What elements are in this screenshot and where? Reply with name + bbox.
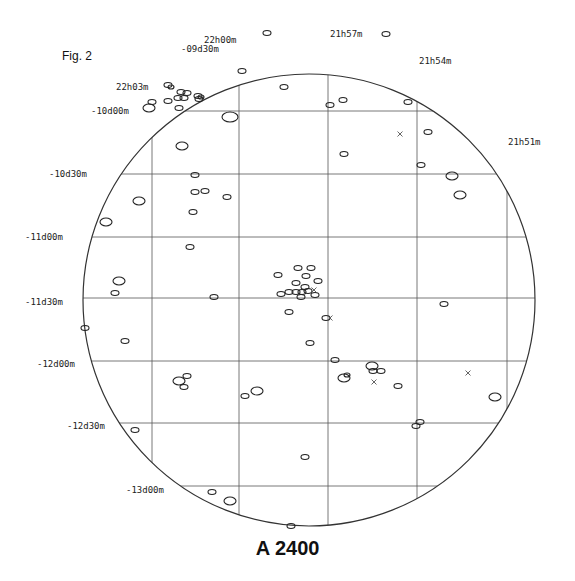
chart-title: A 2400 bbox=[0, 537, 575, 560]
galaxy-marker bbox=[446, 172, 458, 180]
galaxy-marker bbox=[175, 106, 183, 111]
galaxy-marker bbox=[314, 279, 322, 284]
galaxy-marker bbox=[210, 295, 218, 300]
sky-chart: 22h03m22h00m21h57m21h54m21h51m-09d30m-10… bbox=[0, 0, 575, 581]
galaxy-marker bbox=[173, 377, 185, 385]
galaxy-marker bbox=[164, 99, 172, 104]
galaxy-marker bbox=[113, 277, 125, 285]
galaxy-marker bbox=[424, 130, 432, 135]
galaxy-marker bbox=[280, 85, 288, 90]
galaxy-marker bbox=[111, 291, 119, 296]
galaxy-marker bbox=[191, 173, 199, 178]
ra-label: 21h51m bbox=[508, 137, 541, 147]
galaxy-marker bbox=[412, 424, 420, 429]
galaxy-marker bbox=[302, 274, 310, 279]
galaxy-marker bbox=[326, 103, 334, 108]
galaxy-marker bbox=[201, 189, 209, 194]
figure-label: Fig. 2 bbox=[62, 49, 92, 63]
galaxy-marker bbox=[306, 341, 314, 346]
galaxy-marker bbox=[277, 292, 285, 297]
dec-label: -11d00m bbox=[25, 232, 63, 242]
galaxy-marker bbox=[241, 394, 249, 399]
galaxy-marker bbox=[294, 266, 302, 271]
galaxy-marker bbox=[454, 191, 466, 199]
galaxy-marker bbox=[222, 112, 238, 122]
galaxy-marker bbox=[340, 152, 348, 157]
galaxy-marker bbox=[285, 310, 293, 315]
galaxy-marker bbox=[183, 374, 191, 379]
galaxy-marker bbox=[369, 369, 377, 374]
dec-label: -13d00m bbox=[126, 485, 164, 495]
ra-label: 22h03m bbox=[116, 82, 149, 92]
ra-label: 21h57m bbox=[330, 29, 363, 39]
galaxy-marker bbox=[131, 428, 139, 433]
galaxy-marker bbox=[394, 384, 402, 389]
galaxy-marker bbox=[121, 339, 129, 344]
galaxy-marker bbox=[331, 358, 339, 363]
galaxy-marker bbox=[440, 302, 448, 307]
galaxy-marker bbox=[251, 387, 263, 395]
galaxy-marker bbox=[339, 98, 347, 103]
galaxy-marker bbox=[301, 455, 309, 460]
galaxy-marker bbox=[307, 266, 315, 271]
galaxy-marker bbox=[292, 281, 300, 286]
galaxy-marker bbox=[263, 31, 271, 36]
galaxy-marker bbox=[186, 245, 194, 250]
galaxy-marker bbox=[176, 142, 188, 150]
dec-label: -10d00m bbox=[91, 106, 129, 116]
ra-label: 21h54m bbox=[419, 56, 452, 66]
galaxy-marker bbox=[143, 104, 155, 112]
coordinate-labels: 22h03m22h00m21h57m21h54m21h51m-09d30m-10… bbox=[25, 29, 541, 495]
dec-label: -09d30m bbox=[181, 44, 219, 54]
galaxy-marker bbox=[224, 497, 236, 505]
galaxy-marker bbox=[311, 293, 319, 298]
galaxy-marker bbox=[100, 218, 112, 226]
galaxy-marker bbox=[208, 490, 216, 495]
galaxy-marker bbox=[180, 385, 188, 390]
galaxy-marker bbox=[189, 210, 197, 215]
galaxy-marker bbox=[417, 163, 425, 168]
cross-marker bbox=[466, 371, 471, 376]
galaxy-marker bbox=[274, 273, 282, 278]
dec-label: -11d30m bbox=[25, 297, 63, 307]
dec-label: -12d00m bbox=[37, 359, 75, 369]
galaxy-marker bbox=[377, 369, 385, 374]
galaxy-marker bbox=[404, 100, 412, 105]
galaxy-marker bbox=[133, 197, 145, 205]
galaxy-marker bbox=[223, 195, 231, 200]
galaxy-marker bbox=[297, 295, 305, 300]
galaxy-marker bbox=[180, 96, 188, 101]
cross-marker bbox=[372, 380, 377, 385]
cross-marker bbox=[398, 132, 403, 137]
galaxy-marker bbox=[191, 190, 199, 195]
galaxy-marker bbox=[489, 393, 501, 401]
dec-label: -12d30m bbox=[67, 421, 105, 431]
dec-label: -10d30m bbox=[49, 169, 87, 179]
galaxy-marker bbox=[238, 69, 246, 74]
galaxy-marker bbox=[382, 32, 390, 37]
